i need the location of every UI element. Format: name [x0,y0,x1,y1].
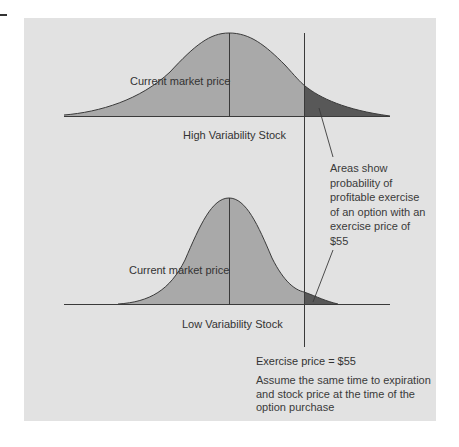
upper-market-price-label: Current market price [130,75,230,88]
low-variability-curve-fill [118,198,304,304]
assumption-line: and stock price at the time of the [256,388,431,402]
annotation-line: Areas show [330,161,425,176]
assumption-note: Assume the same time to expiration and s… [256,374,431,415]
annotation-line: exercise price of [330,219,425,234]
assumption-line: Assume the same time to expiration [256,374,431,388]
low-variability-caption: Low Variability Stock [182,318,283,331]
annotation-line: profitable exercise [330,190,425,205]
annotation-line: of an option with an [330,205,425,220]
lower-market-price-label: Current market price [129,264,229,277]
high-variability-profitable-area [305,86,390,116]
assumption-line: option purchase [256,401,431,415]
high-variability-caption: High Variability Stock [183,129,286,142]
annotation-line: $55 [330,234,425,249]
exercise-price-label: Exercise price = $55 [256,355,356,368]
probability-annotation: Areas show probability of profitable exe… [330,161,425,248]
lower-annotation-pointer [313,250,333,302]
annotation-line: probability of [330,176,425,191]
